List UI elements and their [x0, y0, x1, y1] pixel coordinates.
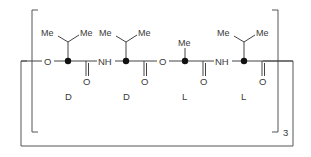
chemical-structure-diagram: 3 O NH [0, 0, 311, 157]
methyl-label: Me [41, 28, 54, 38]
methyl-label: Me [256, 28, 269, 38]
methyl-label: Me [178, 38, 191, 48]
stereo-label-1: D [65, 91, 72, 102]
ester-oxygen-1: O [44, 56, 51, 67]
ester-oxygen-2: O [159, 56, 166, 67]
carbonyl-oxygen-1: O [83, 76, 90, 87]
carbonyl-oxygen-3: O [200, 76, 207, 87]
stereo-label-4: L [241, 91, 246, 102]
methyl-label: Me [99, 28, 112, 38]
ring-closure-loop [21, 61, 293, 146]
amide-nh-2: NH [215, 56, 229, 67]
stereo-label-2: D [123, 91, 130, 102]
repeat-bracket-left [32, 10, 38, 132]
amide-nh-1: NH [98, 56, 112, 67]
stereo-label-3: L [182, 91, 187, 102]
methyl-label: Me [80, 28, 93, 38]
methyl-label: Me [138, 28, 151, 38]
methyl-label: Me [217, 28, 230, 38]
repeat-count: 3 [283, 127, 288, 138]
carbonyl-oxygen-2: O [141, 76, 148, 87]
repeat-bracket-right [272, 10, 278, 132]
carbonyl-oxygen-4: O [259, 76, 266, 87]
